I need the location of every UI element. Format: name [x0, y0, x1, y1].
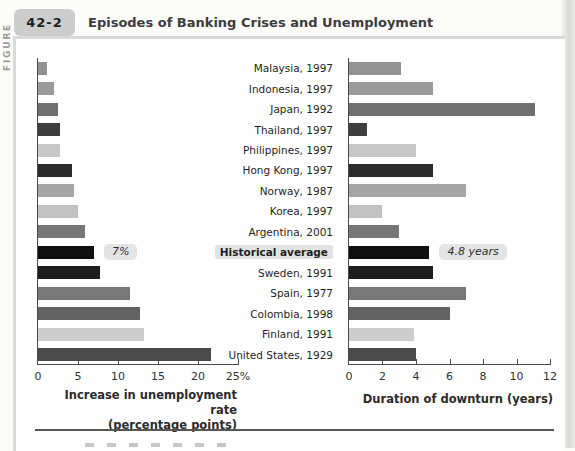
unemployment-bar-chart: 7% 0510152025%	[37, 58, 238, 365]
x-axis-title-left: Increase in unemployment rate (percentag…	[37, 388, 237, 433]
category-label: Argentina, 2001	[248, 226, 333, 238]
category-row: Malaysia, 1997	[237, 58, 341, 78]
bar	[38, 246, 94, 259]
bar-row	[38, 181, 238, 201]
bar-row	[349, 263, 550, 283]
source-divider-rule	[35, 429, 554, 431]
axis-tick-label: 6	[446, 370, 453, 383]
bar-row	[38, 222, 238, 242]
bar-row	[38, 160, 238, 180]
category-row: Argentina, 2001	[237, 222, 341, 242]
bar	[349, 82, 433, 95]
bar-row	[349, 324, 550, 344]
bar-row	[38, 140, 238, 160]
category-label: Japan, 1992	[270, 103, 333, 115]
category-label: Norway, 1987	[260, 185, 333, 197]
axis-tick-label: 0	[346, 370, 353, 383]
bar-row	[38, 119, 238, 139]
category-row: Historical average	[237, 242, 341, 262]
category-row: Sweden, 1991	[237, 263, 341, 283]
bar	[349, 266, 433, 279]
category-label: Thailand, 1997	[255, 124, 334, 136]
bar-row: 7%	[38, 242, 238, 262]
bar	[349, 287, 466, 300]
bar	[38, 144, 60, 157]
bar-row	[349, 99, 550, 119]
x-axis-tick-labels-right: 024681012	[349, 370, 550, 384]
bar	[38, 287, 130, 300]
bar	[38, 307, 140, 320]
category-row: Indonesia, 1997	[237, 78, 341, 98]
bar-row	[349, 78, 550, 98]
bar	[349, 123, 367, 136]
bar	[349, 103, 535, 116]
figure-vertical-label-text: FIGURE	[2, 23, 12, 71]
bar	[349, 62, 401, 75]
axis-tick-label: 2	[379, 370, 386, 383]
axis-tick-label: 8	[479, 370, 486, 383]
axis-tick	[158, 359, 159, 365]
axis-tick	[483, 359, 484, 365]
bar	[38, 184, 74, 197]
average-annotation: 4.8 years	[439, 244, 506, 260]
figure-number: 42-2	[26, 15, 63, 30]
axis-tick	[450, 359, 451, 365]
category-row: Japan, 1992	[237, 99, 341, 119]
axis-tick	[517, 359, 518, 365]
axis-tick-label: 0	[35, 370, 42, 383]
bar	[349, 246, 429, 259]
bar-row	[349, 181, 550, 201]
bar	[349, 225, 399, 238]
category-row: Thailand, 1997	[237, 119, 341, 139]
bar	[349, 205, 382, 218]
bar	[38, 348, 211, 361]
axis-tick-label: 4	[412, 370, 419, 383]
bar	[349, 144, 416, 157]
axis-tick-label: 20	[191, 370, 205, 383]
category-row: Korea, 1997	[237, 201, 341, 221]
bar	[349, 184, 466, 197]
bar-row	[38, 99, 238, 119]
x-axis-tick-labels-left: 0510152025%	[38, 370, 238, 384]
bar-row	[349, 160, 550, 180]
bar	[38, 123, 60, 136]
bar-row	[38, 283, 238, 303]
bar-row	[38, 78, 238, 98]
bar-row	[349, 222, 550, 242]
duration-bar-chart: 4.8 years 024681012	[348, 58, 550, 365]
category-row: United States, 1929	[237, 344, 341, 364]
axis-tick	[550, 359, 551, 365]
clipped-source-text	[85, 443, 235, 447]
axis-tick-label: 15	[151, 370, 165, 383]
category-label: United States, 1929	[229, 349, 334, 361]
figure-title: Episodes of Banking Crises and Unemploym…	[88, 15, 433, 30]
bar-row	[38, 324, 238, 344]
bar	[38, 103, 58, 116]
bar	[349, 164, 433, 177]
category-row: Norway, 1987	[237, 181, 341, 201]
axis-tick	[118, 359, 119, 365]
axis-tick-label: 10	[510, 370, 524, 383]
axis-tick-label: 10	[111, 370, 125, 383]
bar-row	[38, 303, 238, 323]
category-label: Indonesia, 1997	[249, 83, 333, 95]
bar	[349, 307, 450, 320]
axis-tick	[198, 359, 199, 365]
category-label: Hong Kong, 1997	[243, 164, 333, 176]
category-label: Sweden, 1991	[258, 267, 333, 279]
bar	[38, 205, 78, 218]
bar-row	[38, 263, 238, 283]
category-label: Finland, 1991	[262, 328, 333, 340]
bar	[38, 82, 54, 95]
bar-row	[38, 58, 238, 78]
figure-number-tab: 42-2	[14, 9, 75, 36]
bar-row	[349, 201, 550, 221]
axis-tick-label: 25%	[226, 370, 250, 383]
axis-tick	[416, 359, 417, 365]
axis-tick	[78, 359, 79, 365]
category-label: Malaysia, 1997	[254, 62, 333, 74]
axis-tick-label: 12	[543, 370, 557, 383]
category-row: Finland, 1991	[237, 324, 341, 344]
x-axis-line-left	[38, 364, 238, 365]
bar	[38, 164, 72, 177]
